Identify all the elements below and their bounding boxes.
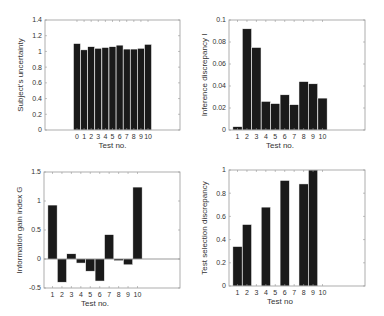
bar-10 — [318, 98, 327, 130]
x-tick-label: 5 — [273, 133, 277, 140]
x-tick-label: 1 — [236, 289, 240, 296]
y-tick-label: 0.6 — [216, 213, 226, 220]
subplot-inference-discrepancy: 00.020.040.060.080.112345678910Test no.I… — [200, 16, 365, 150]
bar-6 — [116, 45, 123, 130]
x-tick-label: 10 — [134, 291, 142, 298]
bar-2 — [88, 47, 95, 130]
bar-1 — [233, 247, 242, 286]
x-axis-label: Test no — [267, 297, 293, 306]
bar-1 — [48, 205, 57, 259]
x-tick-label: 8 — [117, 291, 121, 298]
x-axis-label: Test no. — [81, 299, 109, 308]
x-tick-label: 10 — [319, 289, 327, 296]
subplot-information-gain-index: -0.500.511.512345678910Test no.Informati… — [15, 168, 180, 308]
bar-2 — [242, 225, 251, 286]
y-tick-label: 0.5 — [31, 226, 41, 233]
x-tick-label: 9 — [311, 133, 315, 140]
x-tick-label: 7 — [125, 133, 129, 140]
y-tick-label: 0 — [38, 126, 42, 133]
bars — [233, 170, 318, 286]
x-tick-label: 4 — [264, 289, 268, 296]
bars — [73, 44, 151, 130]
bar-5 — [109, 47, 116, 130]
x-tick-label: 1 — [82, 133, 86, 140]
y-tick-label: 0.8 — [32, 64, 42, 71]
y-axis-label: Information gain index G — [15, 186, 24, 273]
x-tick-label: 5 — [88, 291, 92, 298]
y-tick-label: 0 — [222, 282, 226, 289]
bar-3 — [67, 254, 76, 259]
x-tick-label: 3 — [96, 133, 100, 140]
x-axis-label: Test no. — [266, 141, 294, 150]
bar-9 — [308, 84, 317, 130]
y-axis-label: Inference discrepancy I — [200, 34, 209, 117]
bar-3 — [95, 48, 102, 130]
y-tick-label: 1 — [38, 48, 42, 55]
y-tick-label: 1 — [37, 197, 41, 204]
bar-10 — [145, 44, 152, 130]
x-tick-label: 3 — [69, 291, 73, 298]
y-tick-label: 0.6 — [32, 79, 42, 86]
x-tick-label: 8 — [132, 133, 136, 140]
y-tick-label: 0.4 — [32, 95, 42, 102]
y-tick-label: 0.1 — [216, 16, 226, 23]
x-tick-label: 1 — [51, 291, 55, 298]
x-tick-label: 4 — [79, 291, 83, 298]
x-tick-label: 5 — [273, 289, 277, 296]
y-tick-label: 1.4 — [32, 16, 42, 23]
x-tick-label: 7 — [292, 133, 296, 140]
bar-6 — [95, 259, 104, 281]
x-tick-label: 2 — [60, 291, 64, 298]
x-axis-label: Test no. — [98, 141, 126, 150]
bar-7 — [105, 235, 114, 259]
y-tick-label: -0.5 — [29, 284, 41, 291]
y-tick-label: 0.8 — [216, 190, 226, 197]
x-tick-label: 9 — [139, 133, 143, 140]
bar-7 — [123, 49, 130, 130]
bars — [48, 187, 142, 282]
x-tick-label: 9 — [311, 289, 315, 296]
bar-3 — [252, 48, 261, 131]
figure: 00.20.40.60.811.21.4012345678910Test no.… — [0, 0, 384, 316]
x-tick-label: 10 — [144, 133, 152, 140]
y-tick-label: 0.06 — [212, 60, 226, 67]
y-tick-label: 0.02 — [212, 104, 226, 111]
x-tick-label: 9 — [126, 291, 130, 298]
y-tick-label: 0 — [37, 255, 41, 262]
x-tick-label: 6 — [118, 133, 122, 140]
bar-7 — [290, 105, 299, 130]
y-tick-label: 0.2 — [32, 111, 42, 118]
figure-canvas: 00.20.40.60.811.21.4012345678910Test no.… — [0, 0, 384, 316]
y-tick-label: 1 — [222, 166, 226, 173]
x-tick-label: 7 — [292, 289, 296, 296]
bar-4 — [102, 48, 109, 131]
x-tick-label: 8 — [302, 289, 306, 296]
x-tick-label: 6 — [283, 133, 287, 140]
x-tick-label: 3 — [254, 133, 258, 140]
x-tick-label: 2 — [89, 133, 93, 140]
y-tick-label: 0.08 — [212, 38, 226, 45]
bar-8 — [130, 49, 137, 130]
x-tick-label: 4 — [264, 133, 268, 140]
bar-4 — [76, 259, 85, 263]
bar-6 — [280, 180, 289, 286]
bar-2 — [242, 29, 251, 130]
bar-6 — [280, 95, 289, 130]
bar-9 — [123, 259, 132, 265]
x-tick-label: 2 — [245, 133, 249, 140]
x-tick-label: 0 — [75, 133, 79, 140]
x-tick-label: 10 — [319, 133, 327, 140]
x-tick-label: 3 — [254, 289, 258, 296]
x-tick-label: 8 — [302, 133, 306, 140]
subplot-test-selection-discrepancy: 00.20.40.60.8112345678910Test noTest sel… — [200, 166, 365, 306]
x-tick-label: 5 — [111, 133, 115, 140]
bar-4 — [261, 207, 270, 286]
bar-5 — [86, 259, 95, 271]
x-tick-label: 7 — [107, 291, 111, 298]
y-tick-label: 0.04 — [212, 82, 226, 89]
y-axis-label: Test selection discrepancy — [200, 181, 209, 274]
x-tick-label: 1 — [236, 133, 240, 140]
bar-8 — [299, 82, 308, 130]
bar-0 — [73, 44, 80, 130]
bar-5 — [271, 104, 280, 130]
